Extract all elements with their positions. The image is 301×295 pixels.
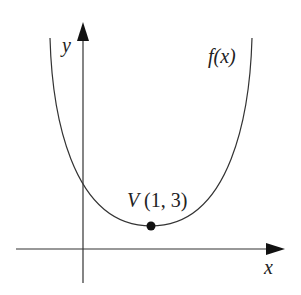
y-axis-arrow-icon bbox=[77, 22, 89, 41]
vertex-coords-label: (1, 3) bbox=[144, 189, 187, 212]
x-axis-arrow-icon bbox=[266, 243, 285, 255]
function-label: f(x) bbox=[208, 45, 236, 68]
y-axis-label: y bbox=[60, 34, 71, 57]
vertex-name-label: V bbox=[127, 189, 142, 211]
vertex-point bbox=[147, 222, 156, 231]
parabola-diagram: y x f(x) V (1, 3) bbox=[0, 0, 301, 295]
x-axis-label: x bbox=[263, 256, 273, 278]
